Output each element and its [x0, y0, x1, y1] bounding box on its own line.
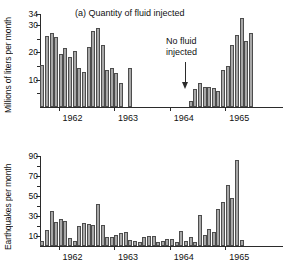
- x-tick: [170, 107, 171, 111]
- chart-bar: [40, 65, 44, 107]
- arrow-head: [182, 82, 188, 89]
- annotation-line-1: No fluid: [166, 36, 197, 47]
- x-tick: [170, 246, 171, 250]
- chart-bar: [110, 237, 114, 246]
- chart-bar: [82, 223, 86, 246]
- chart-bar: [198, 215, 202, 246]
- chart-bar: [105, 70, 109, 107]
- chart-bar: [59, 219, 63, 246]
- chart-bar: [91, 31, 95, 107]
- arrow-shaft: [185, 62, 186, 84]
- chart-bar: [50, 33, 54, 107]
- x-tick-label: 1964: [174, 253, 194, 262]
- x-tick: [59, 107, 60, 111]
- chart-bar: [110, 68, 114, 107]
- chart-bar: [68, 57, 72, 107]
- chart-bar: [244, 41, 248, 107]
- chart-panel-a: Millions of liters per month (a) Quantit…: [0, 0, 285, 140]
- chart-bar: [54, 37, 58, 107]
- chart-bar: [101, 45, 105, 107]
- plot-area-b: 1030507090 1962196319641965: [16, 140, 285, 280]
- chart-bar: [175, 242, 179, 246]
- chart-bar: [226, 66, 230, 107]
- chart-bar: [87, 47, 91, 107]
- chart-bar: [40, 241, 44, 246]
- chart-bar: [193, 89, 197, 107]
- chart-bar: [221, 70, 225, 107]
- chart-bar: [216, 209, 220, 246]
- chart-bar: [114, 73, 118, 107]
- chart-bar: [114, 235, 118, 246]
- chart-bar: [101, 225, 105, 246]
- chart-bar: [77, 226, 81, 246]
- chart-bar: [124, 232, 128, 246]
- chart-bar: [45, 36, 49, 107]
- chart-bar: [73, 241, 77, 246]
- chart-bar: [212, 88, 216, 107]
- chart-bar: [189, 237, 193, 246]
- y-axis-label-a: Millions of liters per month: [1, 6, 15, 124]
- x-tick-label: 1962: [62, 114, 82, 123]
- chart-bar: [216, 91, 220, 107]
- y-axis-label-b: Earthquakes per month: [1, 148, 15, 266]
- chart-bar: [179, 231, 183, 246]
- chart-bar: [68, 238, 72, 246]
- chart-bar: [91, 225, 95, 246]
- chart-bar: [133, 241, 137, 246]
- chart-bar: [54, 222, 58, 246]
- chart-bar: [189, 101, 193, 107]
- x-tick-label: 1965: [229, 253, 249, 262]
- chart-bar: [156, 242, 160, 246]
- chart-bar: [198, 83, 202, 107]
- chart-bar: [147, 236, 151, 246]
- chart-bar: [221, 202, 225, 246]
- chart-bar: [105, 237, 109, 246]
- chart-bar: [87, 224, 91, 246]
- chart-bar: [45, 230, 49, 246]
- annotation-line-2: injected: [166, 47, 197, 58]
- x-tick-label: 1962: [62, 253, 82, 262]
- x-tick-label: 1963: [118, 253, 138, 262]
- chart-bar: [240, 240, 244, 246]
- chart-bar: [235, 160, 239, 246]
- plot-area-a: 10203034 1962196319641965: [16, 0, 285, 140]
- chart-bar: [226, 185, 230, 246]
- chart-bar: [77, 68, 81, 107]
- chart-bar: [212, 232, 216, 246]
- chart-bar: [203, 87, 207, 108]
- x-tick-label: 1965: [229, 114, 249, 123]
- x-tick-label: 1964: [174, 114, 194, 123]
- chart-bar: [50, 211, 54, 246]
- chart-bar: [73, 51, 77, 107]
- chart-bar: [82, 72, 86, 107]
- no-fluid-annotation: No fluid injected: [166, 36, 197, 58]
- x-tick-label: 1963: [118, 114, 138, 123]
- chart-bar: [142, 237, 146, 246]
- x-tick: [225, 107, 226, 111]
- chart-bar: [161, 241, 165, 246]
- chart-bar: [128, 240, 132, 246]
- x-tick: [114, 107, 115, 111]
- chart-bar: [184, 241, 188, 246]
- chart-bar: [230, 45, 234, 107]
- chart-bar: [152, 236, 156, 246]
- x-tick: [59, 246, 60, 250]
- chart-bar: [119, 233, 123, 246]
- chart-bar: [138, 242, 142, 246]
- chart-bar: [249, 33, 253, 107]
- chart-bar: [207, 87, 211, 107]
- chart-bar: [193, 242, 197, 246]
- chart-bar: [240, 18, 244, 107]
- chart-bar: [235, 35, 239, 107]
- chart-bar: [207, 229, 211, 246]
- chart-bar: [63, 221, 67, 246]
- chart-bar: [119, 83, 123, 107]
- x-tick: [225, 246, 226, 250]
- chart-bar: [96, 28, 100, 107]
- chart-panel-b: Earthquakes per month (b) Number of eart…: [0, 140, 285, 280]
- chart-bar: [96, 204, 100, 246]
- chart-bar: [230, 198, 234, 246]
- x-tick: [114, 246, 115, 250]
- chart-bar: [59, 54, 63, 107]
- chart-bar: [165, 239, 169, 246]
